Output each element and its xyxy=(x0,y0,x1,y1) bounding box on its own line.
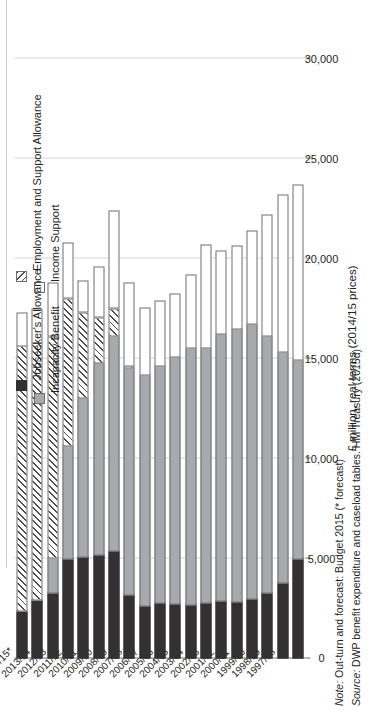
legend-label-incapacity-benefit: Incapacity Benefit xyxy=(49,306,61,393)
value-tick-text: 20,000 xyxy=(304,252,338,264)
bar-2009-10[interactable] xyxy=(108,210,119,658)
legend-swatch-jsa xyxy=(16,380,27,391)
bar-2011-12[interactable] xyxy=(77,280,88,658)
legend-label-income-support: Income Support xyxy=(49,204,61,282)
legend-column-right: Employment and Support Allowance Jobseek… xyxy=(15,96,32,396)
legend-label-jsa: Jobseeker's Allowance xyxy=(31,269,43,380)
source-text: Source: DWP benefit expenditure and case… xyxy=(350,349,362,706)
category-label: 2004/05 xyxy=(190,628,201,664)
bar-2000-01[interactable] xyxy=(246,230,257,658)
value-tick-text: 30,000 xyxy=(304,52,338,64)
category-label: 2005/06 xyxy=(175,628,186,664)
source-body: Source: DWP benefit expenditure and case… xyxy=(350,349,362,706)
value-tick-label: 10,000 xyxy=(315,436,327,480)
category-label: 2000/01 xyxy=(251,628,262,664)
bar-segment-is xyxy=(261,214,272,336)
bar-segment-ib xyxy=(139,374,150,606)
category-label: 2002/03 xyxy=(221,628,232,664)
category-label: 2009/10 xyxy=(114,628,125,664)
category-label: 2010/11 xyxy=(98,629,109,664)
legend-swatch-esa xyxy=(16,271,27,282)
category-label: 1999/00 xyxy=(267,628,278,664)
bar-segment-is xyxy=(200,244,211,348)
bar-segment-is xyxy=(277,194,288,352)
value-tick-text: 25,000 xyxy=(304,152,338,164)
bar-segment-ib xyxy=(200,347,211,603)
bar-segment-esa xyxy=(93,317,104,363)
bar-segment-is xyxy=(62,242,73,298)
bar-segment-ib xyxy=(231,328,242,602)
bar-segment-is xyxy=(246,230,257,324)
value-tick-label: 5,000 xyxy=(315,536,327,580)
category-label: 2012/13 xyxy=(68,628,79,664)
bar-segment-is xyxy=(93,266,104,317)
bar-2002-03[interactable] xyxy=(215,250,226,658)
bar-segment-is xyxy=(77,280,88,312)
bar-segment-is xyxy=(231,245,242,329)
category-label: 2013/14 xyxy=(52,628,63,664)
bar-segment-esa xyxy=(62,298,73,446)
bar-segment-ib xyxy=(169,356,180,604)
bar-1998-99[interactable] xyxy=(277,194,288,658)
bar-segment-ib xyxy=(47,557,58,593)
bar-segment-esa xyxy=(108,308,119,336)
chart-footnotes: Note: Out-turn and forecast: Budget 2015… xyxy=(331,438,375,706)
bar-segment-is xyxy=(292,184,303,360)
bar-segment-is xyxy=(139,307,150,375)
category-label: 1998/99 xyxy=(282,628,293,664)
bar-segment-ib xyxy=(108,335,119,551)
category-label: 2001/02 xyxy=(236,628,247,664)
bar-segment-ib xyxy=(185,347,196,605)
value-tick-label: 30,000 xyxy=(315,36,327,80)
bar-segment-ib xyxy=(277,351,288,583)
bar-segment-is xyxy=(215,250,226,334)
bar-segment-ib xyxy=(246,323,257,599)
bar-2007-08[interactable] xyxy=(139,307,150,658)
gridline xyxy=(14,57,305,58)
bar-1997-98[interactable] xyxy=(292,184,303,658)
bar-segment-ib xyxy=(292,359,303,559)
bar-1999-00[interactable] xyxy=(261,214,272,658)
value-tick-text: 0 xyxy=(318,652,324,664)
bar-segment-ib xyxy=(77,397,88,557)
value-tick-text: 15,000 xyxy=(304,352,338,364)
category-label: 2003/04 xyxy=(205,628,216,664)
category-label: 2006/07 xyxy=(160,628,171,664)
bar-segment-ib xyxy=(154,365,165,603)
bar-2001-02[interactable] xyxy=(231,245,242,658)
bar-segment-ib xyxy=(62,445,73,559)
bar-2010-11[interactable] xyxy=(93,266,104,658)
bar-2006-07[interactable] xyxy=(154,300,165,658)
category-label: 1997/98 xyxy=(297,628,308,664)
bar-segment-is xyxy=(169,293,180,357)
bar-segment-is xyxy=(185,274,196,348)
category-label: 2014/15* xyxy=(37,624,48,664)
value-tick-label: 0 xyxy=(315,636,327,680)
bar-segment-ib xyxy=(93,362,104,555)
bar-segment-is xyxy=(123,282,134,366)
bar-2008-09[interactable] xyxy=(123,282,134,658)
legend-label-esa: Employment and Support Allowance xyxy=(31,94,43,271)
value-tick-label: 25,000 xyxy=(315,136,327,180)
bar-segment-esa xyxy=(77,312,88,398)
category-label: 2008/09 xyxy=(129,628,140,664)
value-tick-label: 15,000 xyxy=(315,336,327,380)
category-label: 2011/12 xyxy=(83,629,94,664)
bar-2012-13[interactable] xyxy=(62,242,73,658)
bar-segment-ib xyxy=(215,333,226,601)
bar-segment-ib xyxy=(261,335,272,593)
bar-2004-05[interactable] xyxy=(185,274,196,658)
bar-2003-04[interactable] xyxy=(200,244,211,658)
note-body: Note: Out-turn and forecast: Budget 2015… xyxy=(333,459,345,706)
gridline xyxy=(14,157,305,158)
category-label: 2015/16* xyxy=(22,624,33,664)
legend-swatch-incapacity-benefit xyxy=(34,393,45,404)
chart-legend: Income Support Incapacity Benefit Employ… xyxy=(14,96,50,396)
bar-segment-is xyxy=(108,210,119,308)
note-text: Note: Out-turn and forecast: Budget 2015… xyxy=(333,459,345,706)
bar-segment-ib xyxy=(123,367,134,595)
value-tick-label: 20,000 xyxy=(315,236,327,280)
category-label: 2007/08 xyxy=(144,628,155,664)
bar-segment-is xyxy=(154,300,165,366)
bar-2005-06[interactable] xyxy=(169,293,180,658)
